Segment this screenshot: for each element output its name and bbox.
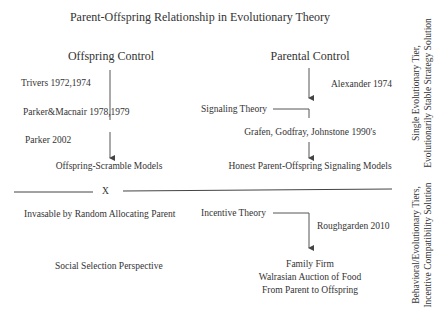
citation-trivers: Trivers 1972,1974 bbox=[21, 79, 91, 89]
incentive-branch-line bbox=[273, 213, 309, 248]
parent-to-offspring-line: From Parent to Offspring bbox=[262, 286, 358, 296]
signaling-theory-label: Signaling Theory bbox=[201, 105, 267, 115]
divider-right bbox=[123, 189, 392, 191]
cross-marker: X bbox=[102, 187, 109, 197]
offspring-scramble-models: Offspring-Scramble Models bbox=[56, 162, 163, 172]
parental-control-heading: Parental Control bbox=[271, 50, 350, 62]
family-firm-line: Family Firm bbox=[286, 260, 334, 270]
honest-signaling-models: Honest Parent-Offspring Signaling Models bbox=[228, 162, 391, 172]
citation-grafen-godfray-johnstone: Grafen, Godfray, Johnstone 1990's bbox=[244, 128, 376, 138]
citation-alexander: Alexander 1974 bbox=[331, 80, 392, 90]
social-selection-perspective: Social Selection Perspective bbox=[55, 262, 163, 272]
walrasian-auction-line: Walrasian Auction of Food bbox=[259, 273, 361, 283]
citation-parker-2002: Parker 2002 bbox=[25, 136, 71, 146]
signaling-branch-line bbox=[273, 109, 309, 118]
incentive-theory-label: Incentive Theory bbox=[201, 209, 266, 219]
side-label-behavioral-tiers: Behavioral/Evolutionary Tiers, Incentive… bbox=[411, 160, 437, 316]
diagram-title: Parent-Offspring Relationship in Evoluti… bbox=[70, 11, 330, 23]
invasion-note: Invasable by Random Allocating Parent bbox=[24, 210, 175, 220]
offspring-control-heading: Offspring Control bbox=[68, 50, 154, 62]
citation-roughgarden: Roughgarden 2010 bbox=[317, 222, 390, 232]
citation-parker-macnair: Parker&Macnair 1978,1979 bbox=[23, 108, 130, 118]
